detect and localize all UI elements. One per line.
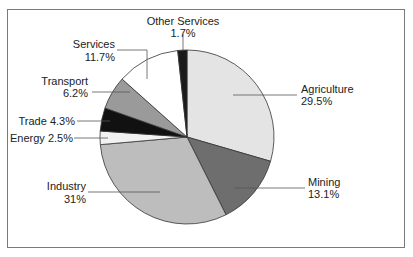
label-trade: Trade 4.3% bbox=[19, 115, 76, 127]
label-services-name: Services bbox=[73, 38, 116, 50]
label-transport-name: Transport bbox=[41, 75, 88, 87]
label-other-services-pct: 1.7% bbox=[170, 27, 195, 39]
label-other-services-name: Other Services bbox=[147, 15, 220, 27]
pie-chart: Other Services 1.7% Services 11.7% Trans… bbox=[0, 0, 413, 257]
label-mining-pct: 13.1% bbox=[308, 188, 339, 200]
label-mining-name: Mining bbox=[308, 176, 340, 188]
label-energy: Energy 2.5% bbox=[10, 132, 73, 144]
label-industry-pct: 31% bbox=[64, 193, 86, 205]
label-transport-pct: 6.2% bbox=[63, 87, 88, 99]
label-services-pct: 11.7% bbox=[85, 51, 116, 63]
pie-slices bbox=[100, 50, 274, 224]
label-agriculture-pct: 29.5% bbox=[301, 95, 332, 107]
label-agriculture-name: Agriculture bbox=[301, 83, 354, 95]
label-industry-name: Industry bbox=[47, 180, 87, 192]
